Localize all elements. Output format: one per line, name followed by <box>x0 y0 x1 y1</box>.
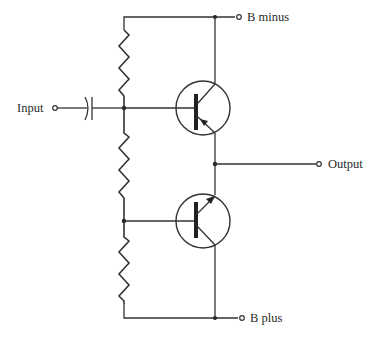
b-minus-rail <box>124 15 241 30</box>
resistor-r3 <box>119 221 129 304</box>
b-plus-label: B plus <box>250 311 282 325</box>
b-plus-terminal <box>240 316 245 321</box>
resistor-r2 <box>119 108 129 221</box>
b-plus-rail <box>124 304 244 320</box>
b-minus-label: B minus <box>247 10 289 24</box>
resistor-r1 <box>119 30 129 108</box>
circuit-diagram: B minus B plus Input Output <box>0 0 379 340</box>
b-minus-terminal <box>237 15 242 20</box>
input-label: Input <box>17 101 44 115</box>
output-terminal <box>317 162 322 167</box>
input-terminal <box>53 106 58 111</box>
output-label: Output <box>328 157 363 171</box>
